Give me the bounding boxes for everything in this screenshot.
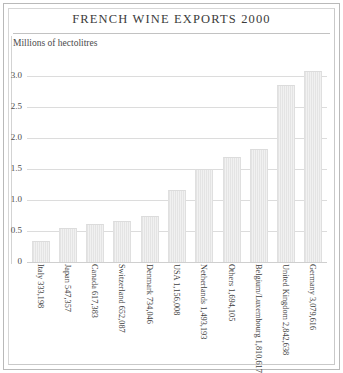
category-label-value: 652,087 (117, 306, 126, 333)
category-label-value: 333,198 (36, 281, 45, 308)
category-label: Canada 617,383 (90, 264, 99, 318)
bar (141, 216, 159, 262)
category-label: United Kingdom 2,842,638 (281, 264, 290, 355)
category-label-value: 1,810,617 (254, 340, 263, 373)
chart-figure: FRENCH WINE EXPORTS 2000 Millions of hec… (0, 0, 343, 373)
category-label-name: Denmark (145, 264, 154, 295)
category-label-value: 1,156,008 (172, 282, 181, 315)
title-divider (13, 33, 330, 34)
category-label-name: Italy (36, 264, 45, 279)
category-label: Netherlands 1,493,193 (199, 264, 208, 339)
category-label: Denmark 734,046 (145, 264, 154, 324)
category-label: Japan 547,357 (63, 264, 72, 312)
category-label-value: 2,842,638 (281, 322, 290, 355)
category-label: Belgium/Luxembourg 1,810,617 (254, 264, 263, 373)
bar (113, 221, 131, 262)
y-tick-label: 1.0 (11, 195, 22, 204)
bar (168, 190, 186, 262)
category-label-name: Japan (63, 264, 72, 283)
category-label: USA 1,156,008 (172, 264, 181, 315)
bar (304, 71, 322, 262)
bar (32, 241, 50, 262)
y-tick-label: 3.0 (11, 71, 22, 80)
category-label: Italy 333,198 (36, 264, 45, 308)
bar (223, 157, 241, 262)
category-label-name: Netherlands (199, 264, 208, 304)
category-label-name: Switzerland (117, 264, 126, 304)
category-label-value: 1,493,193 (199, 306, 208, 339)
bar (59, 228, 77, 262)
category-label-name: Belgium/Luxembourg (254, 264, 263, 338)
category-label-value: 3,079,616 (308, 297, 317, 330)
bar (195, 169, 213, 262)
category-label: Switzerland 652,087 (117, 264, 126, 333)
y-tick-label: 1.5 (11, 164, 22, 173)
category-label-name: Others (227, 264, 236, 286)
bar (86, 224, 104, 262)
category-label-value: 1,694,105 (227, 288, 236, 321)
category-label-value: 547,357 (63, 285, 72, 312)
y-axis-unit-label: Millions of hectolitres (13, 38, 97, 48)
category-label: Germany 3,079,616 (308, 264, 317, 330)
chart-title: FRENCH WINE EXPORTS 2000 (9, 12, 334, 27)
gridline-3.0 (27, 76, 327, 77)
category-label-name: Germany (308, 264, 317, 295)
category-label-value: 734,046 (145, 297, 154, 324)
category-label-value: 617,383 (90, 291, 99, 318)
x-axis-category-labels: Italy 333,198Japan 547,357Canada 617,383… (27, 264, 327, 364)
y-tick-label: 0.5 (11, 226, 22, 235)
gridline-0 (27, 262, 327, 263)
category-label-name: United Kingdom (281, 264, 290, 320)
category-label-name: Canada (90, 264, 99, 289)
category-label: Others 1,694,105 (227, 264, 236, 321)
y-tick-label: 2.0 (11, 133, 22, 142)
bar (250, 149, 268, 262)
category-label-name: USA (172, 264, 181, 280)
y-axis-tick-labels: 3.02.52.01.51.00.50 (0, 60, 22, 262)
y-tick-label: 2.5 (11, 102, 22, 111)
y-tick-label: 0 (18, 257, 23, 266)
plot-area (27, 60, 327, 262)
bar (277, 85, 295, 262)
